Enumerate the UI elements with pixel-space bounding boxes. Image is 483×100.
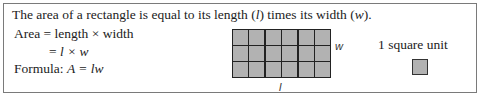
definition-text-1: The area of a rectangle is equal to its … xyxy=(12,7,256,22)
grid-cell xyxy=(315,46,330,61)
width-symbol: w xyxy=(355,7,364,22)
grid-cell xyxy=(282,62,297,77)
grid-cell xyxy=(315,30,330,45)
unit-square xyxy=(412,59,428,75)
grid-cell xyxy=(233,46,248,61)
grid-cell xyxy=(266,62,281,77)
grid-cell xyxy=(266,30,281,45)
formula-label: Formula: xyxy=(14,61,67,76)
equals-sign: = xyxy=(49,44,60,59)
formula-expression: A = lw xyxy=(67,61,104,76)
definition-text-2: ) times its width ( xyxy=(259,7,354,22)
area-word-formula: Area = length × width xyxy=(14,26,133,42)
grid-cell xyxy=(249,46,264,61)
rectangle-grid-diagram xyxy=(232,29,331,78)
length-label: l xyxy=(279,81,281,93)
grid-cell xyxy=(299,62,314,77)
grid-cell xyxy=(299,46,314,61)
grid-cell xyxy=(282,30,297,45)
grid-cell xyxy=(233,62,248,77)
grid-cell xyxy=(266,46,281,61)
grid-cell xyxy=(315,62,330,77)
grid-cell xyxy=(299,30,314,45)
area-definition-sentence: The area of a rectangle is equal to its … xyxy=(12,7,372,23)
grid-cell xyxy=(249,30,264,45)
unit-label: 1 square unit xyxy=(378,37,448,53)
l-times-w: l × w xyxy=(60,44,89,59)
grid-cell xyxy=(233,30,248,45)
area-symbol-formula: = l × w xyxy=(49,44,89,60)
width-label: w xyxy=(335,40,343,52)
grid-cell xyxy=(282,46,297,61)
formula-line: Formula: A = lw xyxy=(14,61,104,77)
grid-cell xyxy=(249,62,264,77)
definition-text-3: ). xyxy=(364,7,372,22)
